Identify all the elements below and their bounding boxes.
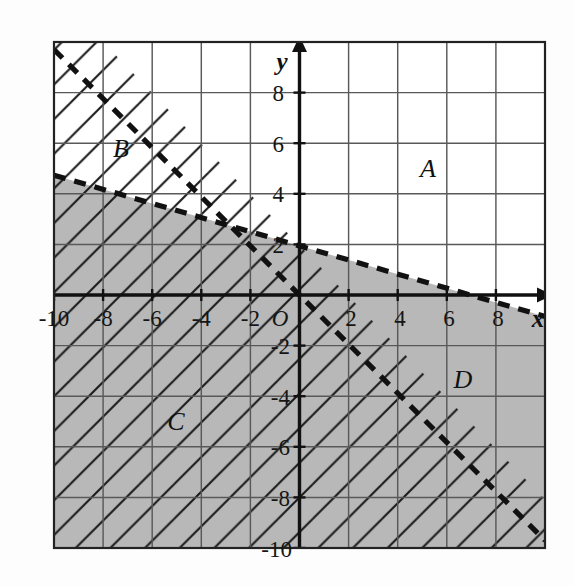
x-tick-label-4: 4	[394, 306, 406, 331]
y-tick-label-8: 8	[273, 81, 285, 106]
y-tick-label--4: -4	[271, 385, 291, 410]
y-tick-label--10: -10	[261, 537, 292, 562]
y-tick-label--6: -6	[271, 435, 290, 460]
y-tick-label-4: 4	[273, 182, 285, 207]
region-label-a: A	[418, 154, 436, 183]
coordinate-plane-figure: -10 -8 -6 -4 -2 2 4 6 8 8 6 4 2 -2 -4 -6…	[0, 0, 574, 586]
x-tick-label-8: 8	[492, 306, 504, 331]
y-axis-label: y	[273, 48, 288, 75]
region-label-b: B	[113, 134, 129, 163]
x-tick-label--2: -2	[241, 306, 260, 331]
x-axis-label: x	[531, 305, 545, 332]
y-tick-label--2: -2	[271, 334, 290, 359]
x-tick-label-2: 2	[345, 306, 357, 331]
graph-svg: -10 -8 -6 -4 -2 2 4 6 8 8 6 4 2 -2 -4 -6…	[0, 0, 574, 586]
region-label-c: C	[167, 407, 185, 436]
y-tick-label--8: -8	[271, 486, 290, 511]
x-tick-label--6: -6	[143, 306, 162, 331]
x-tick-label--4: -4	[192, 306, 212, 331]
x-tick-label-6: 6	[443, 306, 455, 331]
y-tick-label-2: 2	[273, 233, 285, 258]
origin-label: O	[272, 306, 289, 331]
plot-content	[54, 36, 553, 548]
x-tick-label--8: -8	[94, 306, 113, 331]
x-tick-label--10: -10	[39, 306, 70, 331]
region-label-d: D	[453, 365, 473, 394]
y-tick-label-6: 6	[273, 132, 285, 157]
